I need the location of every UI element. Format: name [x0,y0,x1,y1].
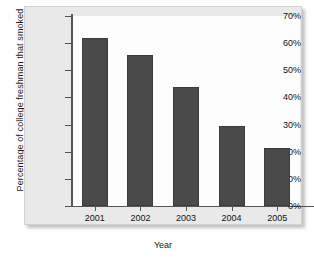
x-tick-mark [232,207,233,211]
y-tick-mark [65,179,72,180]
y-tick-label: 40% [261,92,301,102]
x-axis-title: Year [24,240,302,250]
y-tick-label: 30% [261,120,301,130]
y-tick-mark [65,152,72,153]
chart-panel: 0%10%20%30%40%50%60%70% 2001200220032004… [24,6,302,225]
bar [82,38,108,206]
y-tick-label: 50% [261,65,301,75]
bar [127,55,153,206]
y-tick-mark [65,70,72,71]
y-tick-mark [65,97,72,98]
y-tick-label: 60% [261,38,301,48]
y-tick-mark [65,16,72,17]
x-tick-mark [186,207,187,211]
x-tick-mark [95,207,96,211]
x-tick-label: 2001 [72,213,118,223]
y-tick-mark [65,206,72,207]
bar-chart-figure: Percentage of college freshman that smok… [0,0,314,266]
bar [219,126,245,206]
x-tick-label: 2002 [117,213,163,223]
x-tick-label: 2005 [254,213,300,223]
x-tick-mark [277,207,278,211]
y-tick-mark [65,43,72,44]
x-tick-label: 2003 [163,213,209,223]
x-tick-label: 2004 [209,213,255,223]
y-tick-mark [65,125,72,126]
y-tick-label: 70% [261,11,301,21]
bar [173,87,199,206]
bar [264,148,290,206]
x-tick-mark [140,207,141,211]
